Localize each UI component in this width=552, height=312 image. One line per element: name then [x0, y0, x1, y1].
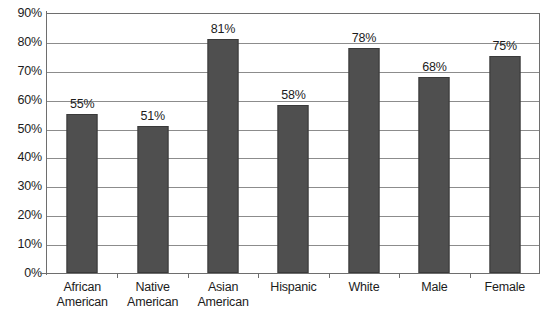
y-tick-label: 20% [0, 209, 42, 221]
x-category-label: Female [470, 280, 540, 295]
bar-group: 51% [117, 13, 187, 273]
bar-group: 58% [258, 13, 328, 273]
x-category-label: White [329, 280, 399, 295]
y-tick-label: 40% [0, 151, 42, 163]
x-tick [329, 273, 330, 278]
x-category-label-line: Asian [188, 280, 258, 295]
y-tick-label: 80% [0, 36, 42, 48]
x-category-label-line: White [329, 280, 399, 295]
x-tick [258, 273, 259, 278]
x-category-label-line: Male [399, 280, 469, 295]
bar[interactable] [208, 39, 239, 273]
y-tick-label: 50% [0, 123, 42, 135]
bars-layer: 55%51%81%58%78%68%75% [47, 13, 540, 273]
x-category-label: AsianAmerican [188, 280, 258, 309]
x-category-label: AfricanAmerican [47, 280, 117, 309]
bar-group: 81% [188, 13, 258, 273]
bar[interactable] [278, 105, 309, 273]
y-tick-label: 60% [0, 94, 42, 106]
x-tick [117, 273, 118, 278]
x-tick [188, 273, 189, 278]
x-category-label: Male [399, 280, 469, 295]
x-category-label: Hispanic [258, 280, 328, 295]
y-tick-label: 10% [0, 238, 42, 250]
x-category-label: NativeAmerican [117, 280, 187, 309]
bar[interactable] [489, 56, 520, 273]
bar-value-label: 68% [422, 61, 446, 73]
y-tick-label: 30% [0, 180, 42, 192]
bar-value-label: 81% [211, 23, 235, 35]
bar[interactable] [67, 114, 98, 273]
y-axis-tick-labels: 0%10%20%30%40%50%60%70%80%90% [0, 0, 42, 312]
bar-chart-figure: 0%10%20%30%40%50%60%70%80%90% 55%51%81%5… [0, 0, 552, 312]
caption-strip [0, 306, 552, 312]
bar-value-label: 58% [281, 89, 305, 101]
y-tick-label: 70% [0, 65, 42, 77]
bar[interactable] [348, 48, 379, 273]
x-tick [470, 273, 471, 278]
y-tick-label: 0% [0, 267, 42, 279]
x-category-label-line: Hispanic [258, 280, 328, 295]
bar-group: 78% [329, 13, 399, 273]
x-tick [399, 273, 400, 278]
bar-group: 75% [470, 13, 540, 273]
y-tick-label: 90% [0, 7, 42, 19]
bar-value-label: 75% [493, 40, 517, 52]
x-category-label-line: African [47, 280, 117, 295]
bar-value-label: 78% [352, 32, 376, 44]
bar-value-label: 51% [140, 110, 164, 122]
bar[interactable] [137, 126, 168, 273]
x-category-label-line: Native [117, 280, 187, 295]
bar-group: 68% [399, 13, 469, 273]
x-category-label-line: Female [470, 280, 540, 295]
bar[interactable] [419, 77, 450, 273]
bar-group: 55% [47, 13, 117, 273]
x-axis-ticks [47, 273, 540, 279]
bar-value-label: 55% [70, 98, 94, 110]
